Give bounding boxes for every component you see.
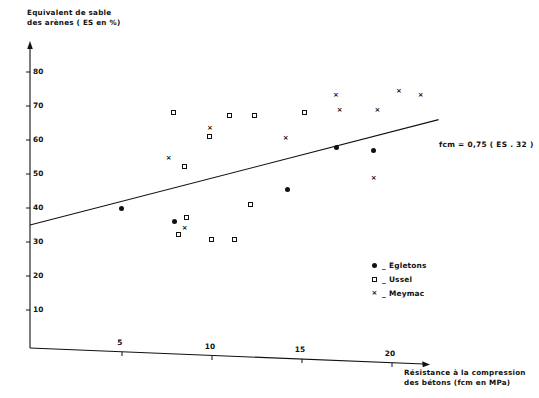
data-point-ussel <box>184 215 189 220</box>
x-axis-label: Résistance à la compression des bétons (… <box>404 368 526 387</box>
data-point-ussel <box>182 164 187 169</box>
legend-marker-filled-circle-icon <box>368 263 381 268</box>
data-point-meymac: × <box>336 107 343 114</box>
data-point-ussel <box>171 110 176 115</box>
data-point-ussel <box>227 113 232 118</box>
y-tick-label-40: 40 <box>33 203 44 212</box>
data-point-meymac: × <box>207 125 214 132</box>
y-axis-ticks <box>26 72 30 310</box>
legend-marker-cross-icon: × <box>368 290 381 297</box>
legend-item-egletons: _Egletons <box>368 258 427 272</box>
y-tick-label-80: 80 <box>33 67 44 76</box>
data-point-meymac: × <box>333 92 340 99</box>
trend-line <box>30 120 439 225</box>
legend-dash: _ <box>382 275 386 284</box>
data-point-meymac: × <box>165 155 172 162</box>
data-point-meymac: × <box>417 92 424 99</box>
chart-axes-svg <box>0 0 539 398</box>
data-point-ussel <box>232 237 237 242</box>
y-tick-label-20: 20 <box>33 271 44 280</box>
x-tick-label-15: 15 <box>290 345 310 354</box>
legend-label: Egletons <box>389 261 427 270</box>
y-axis-label-line1: Equivalent de sable <box>27 8 120 18</box>
data-point-egletons <box>172 219 177 224</box>
y-axis-label-line2: des arènes ( ES en %) <box>27 18 120 28</box>
x-axis-arrowhead <box>422 361 430 367</box>
y-tick-label-10: 10 <box>33 305 44 314</box>
data-point-ussel <box>252 113 257 118</box>
legend-dash: _ <box>382 261 386 270</box>
data-point-meymac: × <box>181 225 188 232</box>
legend-marker-glyph <box>372 277 377 282</box>
legend-label: Ussel <box>389 275 412 284</box>
x-axis-line <box>30 348 424 364</box>
y-tick-label-50: 50 <box>33 169 44 178</box>
data-point-ussel <box>209 237 214 242</box>
x-tick-label-10: 10 <box>200 342 220 351</box>
chart-figure: Equivalent de sable des arènes ( ES en %… <box>0 0 539 398</box>
data-point-meymac: × <box>374 107 381 114</box>
data-point-meymac: × <box>282 135 289 142</box>
x-tick-label-5: 5 <box>110 338 130 347</box>
y-tick-label-70: 70 <box>33 101 44 110</box>
x-axis-ticks <box>122 352 392 367</box>
data-point-meymac: × <box>396 88 403 95</box>
data-point-ussel <box>176 232 181 237</box>
legend-item-meymac: ×_Meymac <box>368 286 427 300</box>
legend-label: Meymac <box>389 289 424 298</box>
y-tick-label-60: 60 <box>33 135 44 144</box>
data-point-ussel <box>248 202 253 207</box>
data-point-egletons <box>285 187 290 192</box>
data-point-meymac: × <box>370 175 377 182</box>
y-tick-label-30: 30 <box>33 237 44 246</box>
legend-marker-glyph: × <box>371 290 378 297</box>
legend-dash: _ <box>382 289 386 298</box>
legend-item-ussel: _Ussel <box>368 272 427 286</box>
y-axis-arrowhead <box>27 41 33 49</box>
data-point-ussel <box>207 134 212 139</box>
data-point-egletons <box>334 145 339 150</box>
y-axis-label: Equivalent de sable des arènes ( ES en %… <box>27 8 120 27</box>
chart-legend: _Egletons_Ussel×_Meymac <box>368 258 427 300</box>
data-point-ussel <box>302 110 307 115</box>
legend-marker-open-square-icon <box>368 277 381 282</box>
x-axis-label-line1: Résistance à la compression <box>404 368 526 378</box>
x-tick-label-20: 20 <box>380 349 400 358</box>
legend-marker-glyph <box>372 263 377 268</box>
regression-equation-annotation: fcm = 0,75 ( ES . 32 ) <box>439 140 534 149</box>
x-axis-label-line2: des bétons (fcm en MPa) <box>404 378 526 388</box>
